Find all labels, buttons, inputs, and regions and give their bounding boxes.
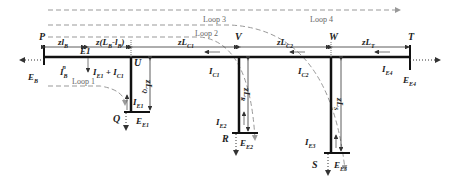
current-IE3: IE3 <box>304 137 316 149</box>
loop-4-label: Loop 4 <box>310 15 333 24</box>
dim-zLQ: zLQ <box>142 79 154 94</box>
voltage-EE2: EE2 <box>239 138 253 150</box>
dim-E1: E1 <box>79 46 91 56</box>
current-IE2: IE2 <box>215 117 227 129</box>
current-IC1: IC1 <box>208 66 220 78</box>
node-T: T <box>408 31 415 42</box>
node-V: V <box>235 31 243 42</box>
node-S: S <box>312 159 318 170</box>
node-W: W <box>329 31 339 42</box>
current-IB: IBn <box>59 64 68 79</box>
voltage-EE4: EE4 <box>402 75 416 87</box>
loop-paths <box>48 10 400 170</box>
loop-1-path <box>48 86 125 105</box>
node-U: U <box>134 57 142 68</box>
voltage-EB: EB <box>27 72 38 84</box>
current-IC2: IC2 <box>297 66 309 78</box>
node-P: P <box>39 31 46 42</box>
dim-zLS: zLS <box>333 97 345 111</box>
voltage-EE3: EE3 <box>333 160 347 172</box>
current-IE1-plus-IC1: IE1 + IC1 <box>92 67 124 79</box>
loop-1-label: Loop 1 <box>72 77 95 86</box>
node-Q: Q <box>113 113 120 124</box>
traction-network-diagram: Loop 3 Loop 2 Loop 4 Loop 1 P <box>0 0 453 182</box>
node-R: R <box>221 133 229 144</box>
voltage-EE1: EE1 <box>135 116 149 128</box>
dim-zLR: zLR <box>240 87 252 101</box>
current-IE4: IE4 <box>381 64 393 76</box>
loop-2-label: Loop 2 <box>195 29 218 38</box>
loop-3-label: Loop 3 <box>203 15 226 24</box>
current-IE1: IE1 <box>132 97 144 109</box>
